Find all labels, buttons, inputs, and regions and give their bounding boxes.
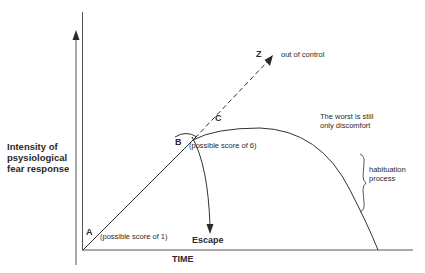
- habituation-brace-icon: [360, 154, 366, 212]
- fear-response-diagram: [0, 0, 425, 273]
- point-c-label: C: [215, 114, 222, 124]
- escape-label: Escape: [192, 236, 224, 246]
- escape-curve: [192, 137, 210, 226]
- worst-note-line1: The worst is still: [320, 112, 400, 121]
- habituation-note-line1: habituation: [369, 165, 424, 174]
- habituation-note: habituation process: [369, 165, 424, 183]
- b-score-note: (possible score of 6): [189, 142, 257, 150]
- out-of-control-dashed-line: [195, 61, 268, 138]
- point-z-label: Z: [256, 50, 262, 60]
- y-axis-label: Intensity of psysiological fear response: [7, 141, 77, 174]
- point-a-label: A: [86, 228, 93, 238]
- worst-note-line2: only discomfort: [320, 121, 400, 130]
- worst-note: The worst is still only discomfort: [320, 112, 400, 130]
- x-axis-label: TIME: [172, 255, 194, 265]
- escape-arrowhead-icon: [207, 224, 214, 234]
- z-arrowhead-icon: [265, 55, 274, 66]
- habituation-note-line2: process: [369, 174, 424, 183]
- point-b-label: B: [175, 138, 182, 148]
- a-score-note: (possible score of 1): [100, 233, 168, 241]
- out-of-control-note: out of control: [281, 51, 324, 59]
